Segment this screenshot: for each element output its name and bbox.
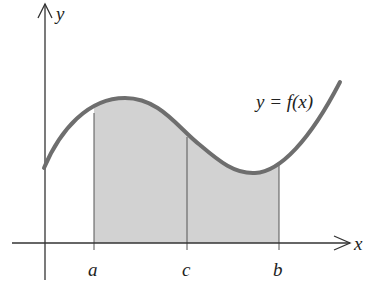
x-axis-label: x [353, 233, 363, 254]
tick-label-c: c [182, 259, 191, 280]
tick-label-a: a [88, 259, 98, 280]
integral-diagram: y x y = f(x) a c b [0, 0, 381, 301]
y-axis-label: y [54, 3, 65, 24]
tick-label-b: b [273, 259, 283, 280]
curve-label: y = f(x) [254, 91, 313, 113]
